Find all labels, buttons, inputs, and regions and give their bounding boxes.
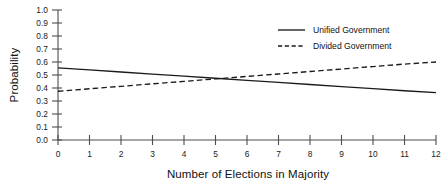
y-tick-label: 0.5 <box>36 70 48 80</box>
x-tick-label: 6 <box>245 149 250 159</box>
x-tick-label: 0 <box>56 149 61 159</box>
y-axis-title: Probability <box>8 47 20 102</box>
x-tick-label: 3 <box>150 149 155 159</box>
x-tick-label: 4 <box>182 149 187 159</box>
x-tick-label: 11 <box>400 149 409 159</box>
series-line-unified-government <box>58 68 436 93</box>
x-tick-label: 7 <box>276 149 281 159</box>
legend-label-divided-government: Divided Government <box>313 41 392 51</box>
y-axis-ticks <box>52 10 62 140</box>
x-tick-label: 5 <box>213 149 218 159</box>
y-tick-label: 0.7 <box>36 44 48 54</box>
y-tick-label: 0.3 <box>36 96 48 106</box>
y-tick-label: 0.6 <box>36 57 48 67</box>
y-tick-label: 0.8 <box>36 31 48 41</box>
y-tick-label: 1.0 <box>36 5 48 15</box>
line-chart: 1.0 0.9 0.8 0.7 0.6 0.5 0.4 0.3 0.2 0.1 … <box>0 0 448 185</box>
y-tick-label: 0.0 <box>36 135 48 145</box>
x-tick-label: 1 <box>87 149 92 159</box>
chart-figure: 1.0 0.9 0.8 0.7 0.6 0.5 0.4 0.3 0.2 0.1 … <box>0 0 448 185</box>
x-axis-title: Number of Elections in Majority <box>167 168 329 180</box>
chart-legend: Unified Government Divided Government <box>278 25 392 51</box>
x-tick-label: 8 <box>308 149 313 159</box>
y-tick-label: 0.2 <box>36 109 48 119</box>
x-tick-label: 9 <box>339 149 344 159</box>
y-tick-label: 0.9 <box>36 18 48 28</box>
y-tick-label: 0.1 <box>36 122 48 132</box>
x-tick-label: 2 <box>119 149 124 159</box>
x-tick-label: 12 <box>431 149 441 159</box>
y-tick-label: 0.4 <box>36 83 48 93</box>
legend-label-unified-government: Unified Government <box>313 25 390 35</box>
series-line-divided-government <box>58 62 436 91</box>
x-tick-label: 10 <box>368 149 378 159</box>
